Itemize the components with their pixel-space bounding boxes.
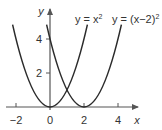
y-axis-label: y (37, 5, 45, 17)
x-tick-label: 0 (47, 114, 53, 126)
chart-canvas: −2 0 2 4 2 4 x y y = x2 y = (x−2)2 (0, 0, 162, 130)
x-tick-label: −2 (10, 114, 23, 126)
x-tick-label: 4 (115, 114, 121, 126)
curve-label-x-minus-2-squared: y = (x−2)2 (112, 13, 159, 25)
x-axis-label: x (133, 114, 140, 126)
y-tick-label: 4 (36, 33, 42, 45)
x-tick-label: 2 (81, 114, 87, 126)
y-tick-label: 2 (36, 67, 42, 79)
parabola-chart: −2 0 2 4 2 4 x y y = x2 y = (x−2)2 (0, 0, 162, 130)
curve-label-x-squared: y = x2 (75, 13, 103, 25)
